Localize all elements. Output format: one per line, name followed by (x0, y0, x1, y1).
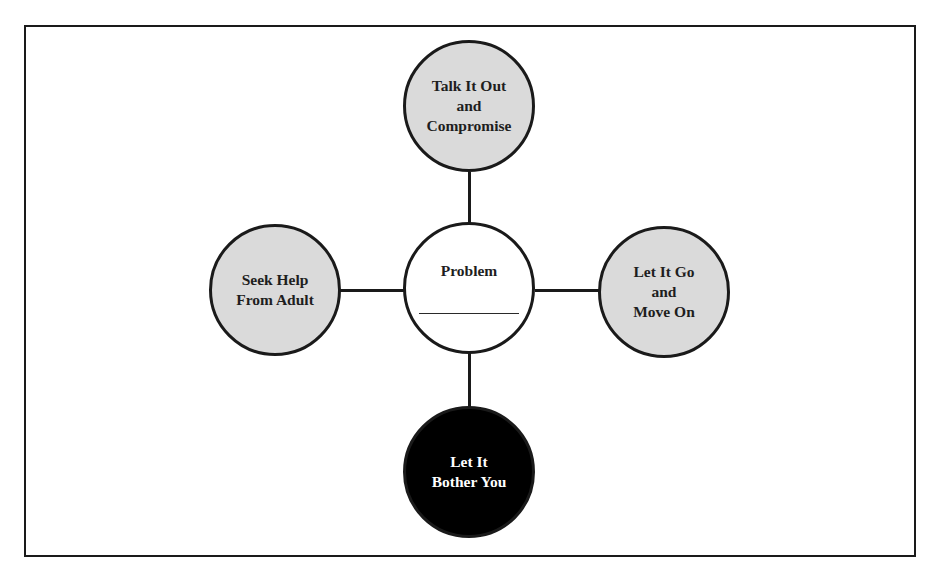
node-label-line: Compromise (427, 116, 512, 136)
connector-left-center (338, 289, 404, 292)
node-label-line: From Adult (236, 290, 314, 310)
node-let-it-bother-you: Let It Bother You (403, 406, 535, 538)
node-seek-help: Seek Help From Adult (209, 224, 341, 356)
connector-center-right (535, 289, 601, 292)
node-label-line: Move On (633, 302, 695, 322)
node-label-line: Let It Go (633, 262, 694, 282)
node-label-line: and (457, 96, 482, 116)
node-label-line: Let It (450, 452, 487, 472)
node-label-line: Talk It Out (432, 76, 506, 96)
node-label-line: and (652, 282, 677, 302)
center-content: Problem (406, 225, 532, 351)
node-label-line: Seek Help (242, 270, 309, 290)
node-let-it-go: Let It Go and Move On (598, 226, 730, 358)
problem-answer-blank[interactable] (419, 313, 519, 314)
node-label-line: Bother You (432, 472, 507, 492)
node-talk-it-out: Talk It Out and Compromise (403, 40, 535, 172)
node-problem-center: Problem (403, 222, 535, 354)
problem-label: Problem (441, 261, 498, 281)
connector-top-center (468, 172, 471, 224)
connector-center-bottom (468, 352, 471, 408)
